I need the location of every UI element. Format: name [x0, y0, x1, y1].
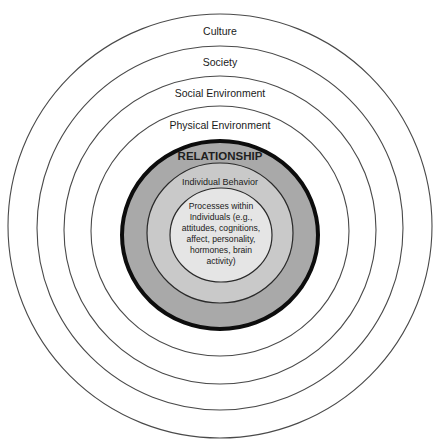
social-environment-label: Social Environment	[0, 87, 440, 99]
individual-behavior-label: Individual Behavior	[0, 176, 440, 188]
society-label: Society	[0, 56, 440, 68]
culture-label: Culture	[0, 25, 440, 37]
processes-label: Processes within Individuals (e.g., atti…	[170, 201, 272, 267]
relationship-label: RELATIONSHIP	[0, 150, 440, 162]
physical-environment-label: Physical Environment	[0, 119, 440, 131]
